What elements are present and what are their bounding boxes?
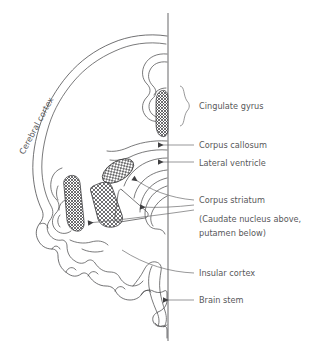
figure-canvas: Cingulate gyrus Corpus callosum Lateral …: [0, 0, 315, 354]
label-insular-cortex: Insular cortex: [199, 268, 255, 278]
brain-section-diagram: Cingulate gyrus Corpus callosum Lateral …: [0, 0, 315, 354]
label-brain-stem: Brain stem: [199, 295, 244, 305]
cingulate-gyrus-hatch: [156, 90, 168, 136]
label-cingulate-gyrus: Cingulate gyrus: [199, 101, 264, 111]
label-lateral-ventricle: Lateral ventricle: [199, 158, 266, 168]
cingulate-brace: [180, 86, 189, 126]
label-corpus-callosum: Corpus callosum: [199, 140, 267, 150]
label-sublabel-line2: putamen below): [199, 228, 266, 238]
label-corpus-striatum: Corpus striatum: [199, 195, 265, 205]
label-sublabel-line1: (Caudate nucleus above,: [199, 214, 301, 224]
